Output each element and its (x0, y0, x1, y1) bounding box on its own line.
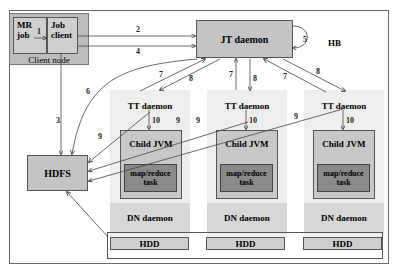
edge-label-9a: 9 (98, 132, 102, 141)
edge-label-7b: 7 (229, 70, 233, 79)
edge-label-9c: 9 (294, 112, 298, 121)
edge-label-10b: 10 (249, 116, 257, 125)
edge-label-2: 2 (136, 25, 140, 34)
edge-label-7c: 7 (283, 72, 287, 81)
edge-label-3: 3 (56, 116, 60, 125)
edge-label-8b: 8 (253, 74, 257, 83)
edge-label-8c: 8 (316, 67, 320, 76)
edge-label-10c: 10 (346, 116, 354, 125)
edge-label-10a: 10 (152, 116, 160, 125)
edge-label-6: 6 (86, 87, 90, 96)
edge-label-9d: 9 (176, 116, 180, 125)
edge-label-1: 1 (37, 27, 41, 36)
edge-label-9b: 9 (196, 116, 200, 125)
edge-label-7a: 7 (159, 70, 163, 79)
edge-label-4: 4 (136, 47, 140, 56)
edge-label-8a: 8 (189, 74, 193, 83)
edge-label-5: 5 (303, 35, 307, 44)
arrows-layer: 1 2 4 3 5 6 7 8 7 8 7 8 10 10 10 9 9 9 9 (0, 0, 402, 273)
